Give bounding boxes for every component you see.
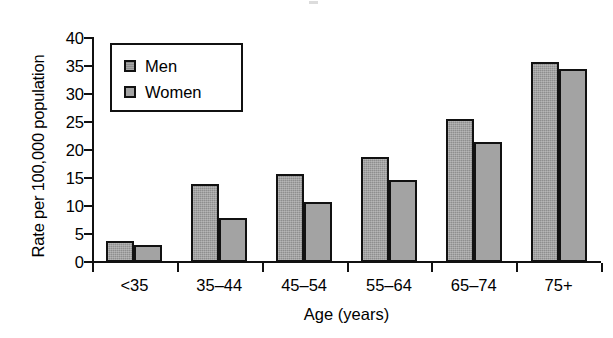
bar-women-4 [474,142,502,262]
x-axis-tick-mark [177,263,179,272]
x-axis-tick-label: 35–44 [177,276,262,294]
y-axis-tick-label: 30 [44,86,84,103]
y-axis-tick-mark [84,37,92,39]
y-axis-tick-mark [84,65,92,67]
y-axis-tick-mark [84,233,92,235]
x-axis-title: Age (years) [92,305,601,323]
x-axis-tick-label: 55–64 [347,276,432,294]
bar-chart-figure: Rate per 100,000 population 051015202530… [0,0,613,338]
legend-swatch-men-icon [124,60,136,72]
x-axis-tick-label: 45–54 [262,276,347,294]
x-axis-tick-mark [92,263,94,272]
y-axis-tick-label: 40 [44,30,84,47]
scan-artifact [309,1,318,4]
y-axis-tick-label: 10 [44,198,84,215]
bar-women-0 [134,245,162,262]
x-axis-tick-mark [347,263,349,272]
y-axis-tick-mark [84,261,92,263]
legend-swatch-women-icon [124,86,136,98]
y-axis-tick-label: 25 [44,114,84,131]
y-axis-tick-mark [84,121,92,123]
y-axis-tick-mark [84,177,92,179]
x-axis-tick-mark [262,263,264,272]
legend-label-men: Men [145,58,177,75]
bar-men-4 [446,119,474,262]
bar-men-2 [276,174,304,262]
legend-item-men: Men [124,53,241,79]
y-axis-tick-label: 5 [44,226,84,243]
y-axis-tick-label: 0 [44,254,84,271]
bar-women-2 [304,202,332,262]
legend-label-women: Women [145,84,202,101]
y-axis-tick-label: 35 [44,58,84,75]
y-axis-tick-label: 15 [44,170,84,187]
y-axis-tick-mark [84,205,92,207]
x-axis-tick-mark [431,263,433,272]
y-axis-tick-mark [84,149,92,151]
x-axis-tick-label: <35 [92,276,177,294]
x-axis-tick-mark [601,263,603,272]
x-axis-tick-mark [516,263,518,272]
y-axis-tick-label: 20 [44,142,84,159]
bar-men-3 [361,157,389,262]
x-axis-tick-label: 65–74 [431,276,516,294]
bar-men-1 [191,184,219,262]
legend-item-women: Women [124,79,241,105]
bar-men-0 [106,241,134,262]
bar-men-5 [531,62,559,262]
bar-women-3 [389,180,417,262]
x-axis-tick-label: 75+ [516,276,601,294]
legend: Men Women [110,43,243,112]
bar-women-1 [219,218,247,262]
y-axis-tick-mark [84,93,92,95]
bar-women-5 [559,69,587,262]
